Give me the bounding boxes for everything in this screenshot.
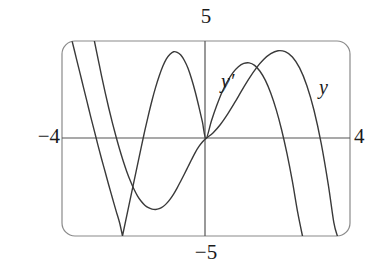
xmin-label: −4 xyxy=(16,124,60,149)
graph-figure: 5 −5 −4 4 y′ y xyxy=(0,0,390,279)
curve-label-y-prime: y′ xyxy=(221,70,234,93)
ymax-label: 5 xyxy=(186,4,226,29)
xmax-label: 4 xyxy=(354,124,380,149)
curve-label-y: y xyxy=(319,76,328,99)
ymin-label: −5 xyxy=(182,240,230,265)
